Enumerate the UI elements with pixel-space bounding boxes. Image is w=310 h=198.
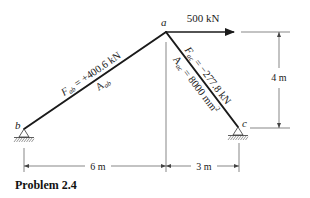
node-b-label: b — [15, 119, 21, 131]
truss-diagram: 500 kN a b c Fab = +400.6 kN Aab Fac = −… — [0, 0, 310, 198]
load-label: 500 kN — [187, 12, 220, 24]
dimension-4m: 4 m — [241, 32, 290, 128]
node-a-label: a — [161, 16, 167, 28]
node-c-label: c — [242, 117, 247, 129]
dimension-3m-label: 3 m — [196, 161, 212, 172]
member-ab — [24, 32, 166, 129]
dimension-3m: 3 m — [166, 161, 239, 172]
dimension-6m-label: 6 m — [90, 161, 106, 172]
member-ac — [166, 32, 238, 127]
member-ac-labels: Fac = −277.8 kN Aac = 8000 mm2 — [169, 44, 234, 117]
problem-caption: Problem 2.4 — [15, 178, 77, 192]
dimension-6m: 6 m — [24, 161, 166, 172]
member-ab-area: Aab — [93, 75, 113, 94]
member-ab-force: Fab = +400.6 kN — [58, 49, 124, 100]
dimension-4m-label: 4 m — [271, 72, 287, 83]
